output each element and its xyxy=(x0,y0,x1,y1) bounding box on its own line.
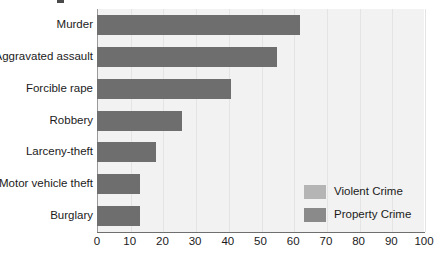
bar xyxy=(97,174,140,194)
x-axis-line xyxy=(97,232,425,233)
bar-row xyxy=(97,15,424,35)
category-label: Larceny-theft xyxy=(26,146,93,158)
legend-label: Violent Crime xyxy=(334,186,403,198)
legend-item: Violent Crime xyxy=(304,182,411,201)
bar xyxy=(97,47,277,67)
bar xyxy=(97,142,156,162)
category-axis-labels: MurderAggravated assaultForcible rapeRob… xyxy=(0,9,93,232)
x-tick-label: 30 xyxy=(189,236,202,248)
bar-row xyxy=(97,47,424,67)
x-tick-label: 100 xyxy=(414,236,433,248)
x-tick-label: 20 xyxy=(156,236,169,248)
bar xyxy=(97,15,300,35)
x-tick-label: 50 xyxy=(254,236,267,248)
category-label: Motor vehicle theft xyxy=(0,178,93,190)
legend-swatch xyxy=(304,208,326,222)
x-tick-label: 70 xyxy=(319,236,332,248)
x-tick-label: 10 xyxy=(123,236,136,248)
legend: Violent CrimeProperty Crime xyxy=(304,182,411,228)
bar xyxy=(97,206,140,226)
gridline xyxy=(425,9,426,232)
category-label: Robbery xyxy=(50,115,93,127)
legend-item: Property Crime xyxy=(304,205,411,224)
cropped-title-mark xyxy=(57,0,64,3)
x-tick-label: 90 xyxy=(385,236,398,248)
bar-row xyxy=(97,111,424,131)
bar-row xyxy=(97,142,424,162)
bar xyxy=(97,79,231,99)
x-tick-label: 0 xyxy=(94,236,100,248)
legend-swatch xyxy=(304,185,326,199)
bar-row xyxy=(97,79,424,99)
x-tick-label: 40 xyxy=(221,236,234,248)
bar xyxy=(97,111,182,131)
category-label: Burglary xyxy=(50,210,93,222)
x-tick-label: 80 xyxy=(352,236,365,248)
category-label: Aggravated assault xyxy=(0,51,93,63)
x-tick-label: 60 xyxy=(287,236,300,248)
category-label: Forcible rape xyxy=(26,83,93,95)
legend-label: Property Crime xyxy=(334,209,411,221)
bar-chart: MurderAggravated assaultForcible rapeRob… xyxy=(0,0,434,257)
category-label: Murder xyxy=(57,19,93,31)
